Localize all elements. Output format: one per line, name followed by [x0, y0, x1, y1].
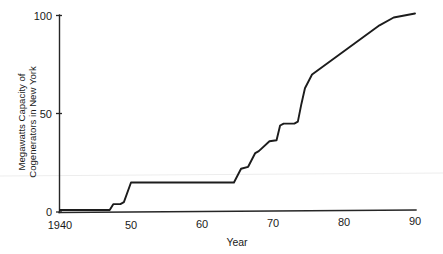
x-tick-label-70: 70 [267, 217, 279, 229]
y-tick-label-0: 0 [46, 206, 52, 218]
chart-figure: Megawatts Capacity of Cogenerators in Ne… [0, 0, 443, 254]
x-tick-label-50: 50 [125, 219, 137, 231]
y-axis-label: Megawatts Capacity of Cogenerators in Ne… [16, 66, 38, 178]
data-series-line [60, 14, 415, 211]
x-axis-label: Year [226, 236, 248, 248]
x-axis-line [59, 210, 416, 213]
x-tick-label-60: 60 [196, 218, 208, 230]
line-chart: Megawatts Capacity of Cogenerators in Ne… [0, 0, 443, 254]
x-axis-tick-labels: 1940 50 60 70 80 90 [48, 215, 421, 231]
x-tick-label-1940: 1940 [48, 219, 72, 231]
x-tick-label-80: 80 [338, 216, 350, 228]
y-tick-label-50: 50 [40, 108, 52, 120]
scan-artifact-line [0, 173, 443, 176]
y-axis-label-line2: Cogenerators in New York [27, 66, 38, 178]
y-axis-label-line1: Megawatts Capacity of [16, 73, 27, 170]
x-tick-label-90: 90 [409, 215, 421, 227]
y-tick-label-100: 100 [34, 10, 52, 22]
